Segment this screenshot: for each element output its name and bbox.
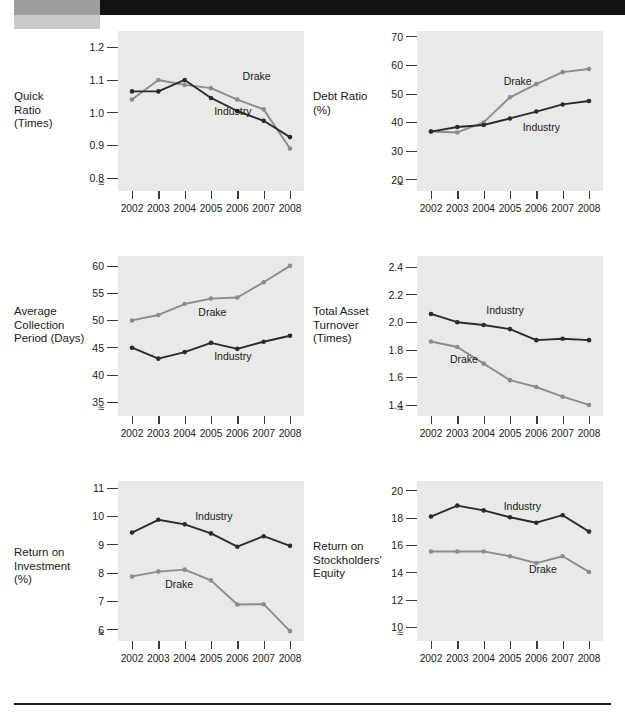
series-annotation-industry: Industry bbox=[486, 304, 523, 316]
series-point-industry bbox=[235, 544, 240, 549]
header-black-bar bbox=[92, 0, 625, 15]
x-tick-label: 2008 bbox=[574, 202, 604, 215]
x-tick-mark bbox=[589, 641, 590, 649]
y-tick-label: 50 bbox=[391, 88, 417, 100]
y-tick-label: 60 bbox=[92, 260, 118, 272]
y-tick-label: 1.2 bbox=[89, 41, 118, 53]
y-tick-value: 1.2 bbox=[89, 41, 107, 53]
series-annotation-industry: Industry bbox=[523, 121, 560, 133]
x-tick-mark bbox=[211, 416, 212, 424]
x-tick-mark bbox=[457, 416, 458, 424]
series-point-drake bbox=[481, 361, 486, 366]
y-tick-label: 2.2 bbox=[388, 289, 417, 301]
chart-return-on-investment: Return onInvestment(%)11109876≈200220032… bbox=[14, 478, 311, 690]
page-header-band bbox=[0, 0, 625, 30]
series-point-drake bbox=[130, 574, 135, 579]
series-point-industry bbox=[455, 320, 460, 325]
series-point-drake bbox=[455, 345, 460, 350]
series-annotation-drake: Drake bbox=[529, 563, 557, 575]
y-tick-label: 10 bbox=[391, 621, 417, 633]
y-tick-value: 14 bbox=[391, 567, 406, 579]
y-tick-label: 8 bbox=[98, 567, 118, 579]
series-point-drake bbox=[288, 629, 293, 634]
y-tick-value: 30 bbox=[391, 145, 406, 157]
x-tick-mark bbox=[237, 641, 238, 649]
x-axis-labels-average-collection-period: 2002200320042005200620072008 bbox=[110, 427, 315, 441]
series-point-industry bbox=[560, 336, 565, 341]
y-tick-value: 8 bbox=[98, 567, 107, 579]
series-point-industry bbox=[508, 515, 513, 520]
y-tick-value: 60 bbox=[391, 59, 406, 71]
series-point-drake bbox=[429, 549, 434, 554]
x-axis-ticks-debt-ratio bbox=[417, 191, 603, 200]
x-tick-mark bbox=[510, 641, 511, 649]
y-tick-label: 1.0 bbox=[89, 107, 118, 119]
y-tick-value: 60 bbox=[92, 260, 107, 272]
y-tick-mark bbox=[107, 601, 118, 602]
x-tick-mark bbox=[237, 416, 238, 424]
y-tick-label: 0.9 bbox=[89, 139, 118, 151]
series-point-drake bbox=[209, 578, 214, 583]
x-tick-label: 2008 bbox=[275, 202, 305, 215]
series-point-drake bbox=[587, 570, 592, 575]
series-point-drake bbox=[182, 83, 187, 88]
y-tick-value: 2.2 bbox=[388, 289, 406, 301]
y-tick-label: 40 bbox=[391, 116, 417, 128]
series-point-drake bbox=[429, 339, 434, 344]
axis-break-icon: ≈ bbox=[397, 627, 403, 639]
x-axis-ticks-quick-ratio bbox=[118, 191, 304, 200]
y-axis-return-on-stockholders-equity: 201816141210≈ bbox=[313, 478, 417, 668]
series-point-industry bbox=[182, 350, 187, 355]
x-tick-mark bbox=[563, 191, 564, 199]
x-tick-mark bbox=[510, 191, 511, 199]
chart-quick-ratio: QuickRatio(Times)1.21.11.00.90.8≈2002200… bbox=[14, 28, 311, 240]
series-point-industry bbox=[288, 544, 293, 549]
x-axis-labels-return-on-investment: 2002200320042005200620072008 bbox=[110, 652, 315, 666]
x-tick-mark bbox=[158, 416, 159, 424]
series-point-industry bbox=[209, 96, 214, 101]
y-tick-mark bbox=[107, 516, 118, 517]
x-axis-labels-quick-ratio: 2002200320042005200620072008 bbox=[110, 202, 315, 216]
footer-divider-rule bbox=[14, 703, 611, 705]
y-tick-mark bbox=[406, 294, 417, 295]
y-tick-mark bbox=[406, 179, 417, 180]
x-tick-label: 2008 bbox=[574, 427, 604, 440]
series-point-industry bbox=[429, 312, 434, 317]
y-tick-mark bbox=[107, 347, 118, 348]
y-axis-average-collection-period: 605550454035≈ bbox=[14, 253, 118, 443]
x-tick-mark bbox=[185, 416, 186, 424]
axis-break-icon: ≈ bbox=[397, 177, 403, 189]
series-point-drake bbox=[130, 318, 135, 323]
series-point-drake bbox=[235, 295, 240, 300]
y-tick-value: 50 bbox=[391, 88, 406, 100]
x-tick-mark bbox=[158, 191, 159, 199]
x-tick-mark bbox=[264, 641, 265, 649]
axis-break-icon: ≈ bbox=[98, 627, 104, 639]
y-tick-mark bbox=[107, 573, 118, 574]
x-tick-mark bbox=[431, 191, 432, 199]
y-tick-mark bbox=[406, 122, 417, 123]
y-tick-label: 7 bbox=[98, 595, 118, 607]
y-tick-label: 10 bbox=[92, 510, 118, 522]
y-tick-mark bbox=[107, 178, 118, 179]
series-point-drake bbox=[587, 67, 592, 72]
y-tick-label: 14 bbox=[391, 567, 417, 579]
series-line-industry bbox=[132, 336, 290, 359]
series-point-drake bbox=[182, 567, 187, 572]
axis-break-icon: ≈ bbox=[98, 177, 104, 189]
series-point-industry bbox=[429, 514, 434, 519]
series-point-drake bbox=[209, 86, 214, 91]
y-tick-value: 12 bbox=[391, 594, 406, 606]
y-tick-label: 50 bbox=[92, 314, 118, 326]
series-annotation-drake: Drake bbox=[243, 70, 271, 82]
x-tick-mark bbox=[431, 641, 432, 649]
chart-return-on-stockholders-equity: Return onStockholders'Equity201816141210… bbox=[313, 478, 610, 690]
y-tick-label: 55 bbox=[92, 287, 118, 299]
series-annotation-drake: Drake bbox=[450, 353, 478, 365]
series-point-industry bbox=[261, 534, 266, 539]
series-point-drake bbox=[560, 554, 565, 559]
series-annotation-drake: Drake bbox=[504, 75, 532, 87]
x-axis-ticks-average-collection-period bbox=[118, 416, 304, 425]
y-axis-return-on-investment: 11109876≈ bbox=[14, 478, 118, 668]
series-point-industry bbox=[560, 513, 565, 518]
